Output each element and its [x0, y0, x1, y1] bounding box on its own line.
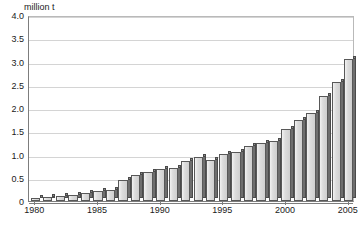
y-axis-tick-label: 1.5 [11, 128, 24, 137]
bar-face [269, 141, 278, 201]
bar-top [203, 154, 206, 157]
bar-face [206, 160, 215, 201]
bar [281, 129, 290, 201]
bar [106, 190, 115, 201]
y-axis-tick-label: 2.5 [11, 81, 24, 90]
bar-face [93, 191, 102, 201]
x-axis-tick-label: 2000 [275, 205, 295, 215]
bar [319, 96, 328, 201]
bar-face [244, 146, 253, 201]
bar-face [181, 161, 190, 201]
bar-face [81, 193, 90, 201]
bar [194, 157, 203, 201]
bar-face [306, 113, 315, 201]
bar-face [106, 190, 115, 201]
y-axis-tick-label: 1.0 [11, 151, 24, 160]
bar [206, 160, 215, 201]
x-axis-tick-label: 1980 [24, 205, 44, 215]
bar-face [319, 96, 328, 201]
bar [269, 141, 278, 201]
bar [231, 152, 240, 201]
y-axis-tick-label: 0.5 [11, 174, 24, 183]
bar-face [118, 180, 127, 201]
y-axis-tick-label: 4.0 [11, 12, 24, 21]
bar-face [43, 197, 52, 201]
bar-face [281, 129, 290, 201]
x-axis-tick-label: 1985 [87, 205, 107, 215]
bar [81, 193, 90, 201]
bar-face [332, 82, 341, 201]
bar [344, 59, 353, 201]
bar [68, 195, 77, 202]
bar [43, 197, 52, 201]
bar-face [219, 154, 228, 201]
bar-face [31, 198, 40, 201]
bar [219, 154, 228, 201]
bar-face [294, 120, 303, 201]
bar-face [68, 195, 77, 202]
bar-face [143, 172, 152, 201]
bar-face [156, 169, 165, 201]
bar-face [256, 143, 265, 201]
bar-face [169, 168, 178, 201]
bar [256, 143, 265, 201]
bar [131, 175, 140, 201]
y-axis-tick-label: 3.5 [11, 35, 24, 44]
bar [31, 198, 40, 201]
bar-face [131, 175, 140, 201]
bar-series [29, 17, 353, 201]
bar [294, 120, 303, 201]
bar-face [344, 59, 353, 201]
bar [93, 191, 102, 201]
y-axis-tick-labels: 00.51.01.52.02.53.03.54.0 [0, 16, 26, 202]
bar [169, 168, 178, 201]
plot-area [28, 16, 354, 202]
y-axis-tick-label: 2.0 [11, 105, 24, 114]
y-axis-unit-label: million t [24, 2, 55, 13]
y-axis-tick-label: 0 [19, 198, 24, 207]
bar-top [353, 56, 356, 59]
x-axis-tick-label: 2005 [338, 205, 358, 215]
y-axis-tick-label: 3.0 [11, 58, 24, 67]
bar-face [56, 196, 65, 201]
x-axis-tick-labels: 198019851990199520002005 [28, 205, 354, 221]
bar [56, 196, 65, 201]
bar [156, 169, 165, 201]
bar [118, 180, 127, 201]
x-axis-tick-label: 1990 [150, 205, 170, 215]
bar [244, 146, 253, 201]
bar-side [353, 56, 356, 198]
x-axis-tick-label: 1995 [212, 205, 232, 215]
bar [181, 161, 190, 201]
bar-face [231, 152, 240, 201]
bar [306, 113, 315, 201]
bar [332, 82, 341, 201]
bar [143, 172, 152, 201]
bar-face [194, 157, 203, 201]
